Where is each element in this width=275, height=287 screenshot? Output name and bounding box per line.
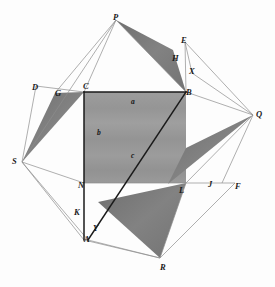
vertex-label-E: E xyxy=(181,36,187,45)
vertex-label-K: K xyxy=(74,208,80,217)
vertex-label-D: D xyxy=(32,83,38,92)
vertex-label-B: B xyxy=(186,88,192,97)
vertex-label-C: C xyxy=(83,82,89,91)
vertex-label-F: F xyxy=(235,182,241,191)
vertex-label-X: X xyxy=(189,67,195,76)
area-label-a: a xyxy=(131,98,135,106)
vertex-label-R: R xyxy=(160,263,166,272)
vertex-label-N: N xyxy=(78,181,84,190)
vertex-label-Q: Q xyxy=(256,110,262,119)
shaded-triangle-left xyxy=(22,92,84,162)
vertex-label-A: A xyxy=(84,235,90,244)
vertex-label-P: P xyxy=(113,13,118,22)
vertex-label-S: S xyxy=(12,157,17,166)
area-label-c: c xyxy=(131,152,134,160)
vertex-label-L: L xyxy=(179,186,184,195)
vertex-label-H: H xyxy=(172,54,179,63)
geometry-figure: P E H X D G C B Q S N L J F K Y A R a b … xyxy=(0,0,275,287)
vertex-label-Y: Y xyxy=(93,224,98,233)
area-label-b: b xyxy=(97,129,101,137)
vertex-label-J: J xyxy=(208,180,212,189)
geometry-canvas xyxy=(0,0,275,287)
vertex-label-G: G xyxy=(55,89,61,98)
